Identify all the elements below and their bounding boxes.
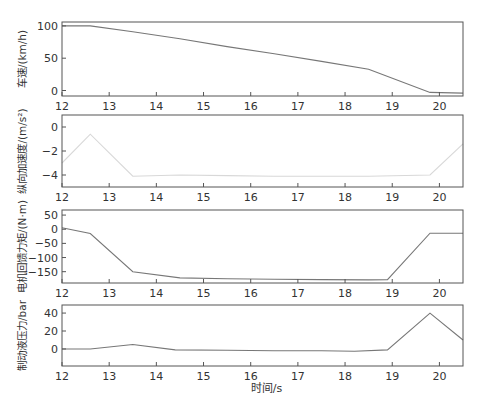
brake_pressure-xtick-label: 13 xyxy=(102,370,116,383)
subplot-brake_pressure: 12131415161718192002040制动液压力/bar xyxy=(16,299,463,383)
acceleration-xtick-label: 14 xyxy=(149,191,163,204)
brake_pressure-xtick-label: 12 xyxy=(55,370,69,383)
regen_torque-ytick-label: 0 xyxy=(51,223,58,236)
acceleration-xtick-label: 19 xyxy=(385,191,399,204)
acceleration-xtick-label: 15 xyxy=(197,191,211,204)
regen_torque-ytick-label: −150 xyxy=(28,266,58,279)
regen_torque-ytick-label: 50 xyxy=(44,209,58,222)
brake_pressure-xtick-label: 17 xyxy=(291,370,305,383)
speed-ytick-label: 100 xyxy=(37,20,58,33)
brake_pressure-axes-frame xyxy=(62,305,463,366)
brake_pressure-xtick-label: 14 xyxy=(149,370,163,383)
speed-ytick-label: 50 xyxy=(44,52,58,65)
regen_torque-xtick-label: 17 xyxy=(291,287,305,300)
regen_torque-xtick-label: 16 xyxy=(244,287,258,300)
speed-xtick-label: 12 xyxy=(55,100,69,113)
subplot-acceleration: 121314151617181920−4−20纵向加速度/(m/s²) xyxy=(16,108,463,204)
acceleration-xtick-label: 13 xyxy=(102,191,116,204)
speed-xtick-label: 15 xyxy=(197,100,211,113)
subplot-regen_torque: 121314151617181920−150−100−50050电机回馈力矩/(… xyxy=(16,200,463,300)
chart-canvas: 121314151617181920050100车速/(km/h)1213141… xyxy=(0,0,481,412)
regen_torque-xtick-label: 19 xyxy=(385,287,399,300)
speed-xtick-label: 17 xyxy=(291,100,305,113)
regen_torque-ytick-label: −50 xyxy=(35,237,58,250)
acceleration-ytick-label: −4 xyxy=(42,169,58,182)
acceleration-xtick-label: 17 xyxy=(291,191,305,204)
brake_pressure-xtick-label: 19 xyxy=(385,370,399,383)
brake_pressure-ytick-label: 0 xyxy=(51,343,58,356)
speed-xtick-label: 16 xyxy=(244,100,258,113)
brake_pressure-ytick-label: 20 xyxy=(44,325,58,338)
acceleration-xtick-label: 20 xyxy=(432,191,446,204)
regen_torque-line xyxy=(62,228,463,280)
regen_torque-ytick-label: −100 xyxy=(28,252,58,265)
brake_pressure-xtick-label: 18 xyxy=(338,370,352,383)
regen_torque-xtick-label: 14 xyxy=(149,287,163,300)
regen_torque-xtick-label: 18 xyxy=(338,287,352,300)
speed-xtick-label: 18 xyxy=(338,100,352,113)
regen_torque-axes-frame xyxy=(62,210,463,283)
speed-ylabel: 车速/(km/h) xyxy=(16,30,28,88)
x-axis-label: 时间/s xyxy=(251,382,283,395)
acceleration-ytick-label: 0 xyxy=(51,121,58,134)
regen_torque-xtick-label: 13 xyxy=(102,287,116,300)
brake_pressure-ylabel: 制动液压力/bar xyxy=(16,299,28,371)
speed-line xyxy=(62,26,463,93)
figure: 121314151617181920050100车速/(km/h)1213141… xyxy=(0,0,481,412)
acceleration-ytick-label: −2 xyxy=(42,145,58,158)
acceleration-xtick-label: 18 xyxy=(338,191,352,204)
speed-xtick-label: 13 xyxy=(102,100,116,113)
brake_pressure-line xyxy=(62,313,463,351)
speed-xtick-label: 14 xyxy=(149,100,163,113)
brake_pressure-xtick-label: 20 xyxy=(432,370,446,383)
regen_torque-xtick-label: 15 xyxy=(197,287,211,300)
regen_torque-xtick-label: 12 xyxy=(55,287,69,300)
brake_pressure-xtick-label: 15 xyxy=(197,370,211,383)
regen_torque-ylabel: 电机回馈力矩/(N·m) xyxy=(16,200,28,293)
acceleration-xtick-label: 12 xyxy=(55,191,69,204)
subplot-speed: 121314151617181920050100车速/(km/h) xyxy=(16,20,463,113)
speed-xtick-label: 20 xyxy=(432,100,446,113)
acceleration-xtick-label: 16 xyxy=(244,191,258,204)
speed-xtick-label: 19 xyxy=(385,100,399,113)
brake_pressure-ytick-label: 40 xyxy=(44,307,58,320)
speed-ytick-label: 0 xyxy=(51,85,58,98)
acceleration-ylabel: 纵向加速度/(m/s²) xyxy=(16,108,28,193)
regen_torque-xtick-label: 20 xyxy=(432,287,446,300)
acceleration-line xyxy=(62,134,463,176)
speed-axes-frame xyxy=(62,22,463,96)
